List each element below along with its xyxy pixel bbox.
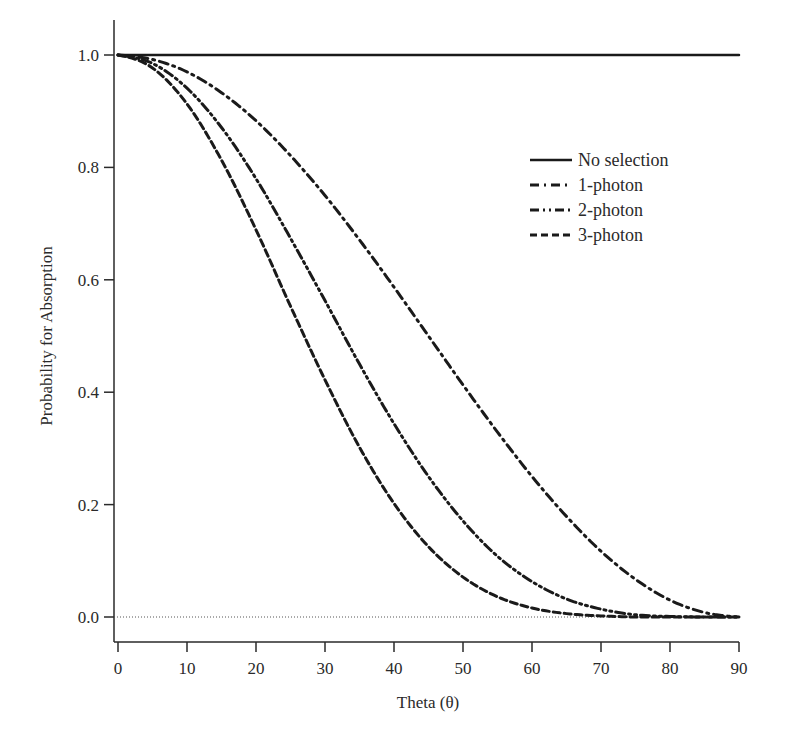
y-tick-label: 0.4 (78, 383, 100, 402)
x-tick-label: 30 (317, 659, 334, 678)
x-tick-label: 80 (662, 659, 679, 678)
y-axis-title: Probability for Absorption (37, 246, 56, 426)
series-line-1-photon (118, 55, 739, 617)
chart-canvas: 0.00.20.40.60.81.0 0102030405060708090 T… (0, 0, 785, 749)
legend: No selection1-photon2-photon3-photon (530, 150, 668, 245)
x-tick-label: 40 (386, 659, 403, 678)
x-tick-label: 90 (731, 659, 748, 678)
x-tick-label: 60 (524, 659, 541, 678)
x-tick-label: 50 (455, 659, 472, 678)
legend-label: 3-photon (578, 225, 643, 245)
y-tick-label: 0.0 (78, 608, 99, 627)
x-axis-ticks: 0102030405060708090 (114, 642, 748, 678)
x-tick-label: 20 (248, 659, 265, 678)
y-tick-label: 1.0 (78, 46, 99, 65)
legend-label: No selection (578, 150, 668, 170)
y-tick-label: 0.8 (78, 158, 99, 177)
y-axis-ticks: 0.00.20.40.60.81.0 (78, 46, 114, 627)
legend-label: 1-photon (578, 175, 643, 195)
y-tick-label: 0.2 (78, 496, 99, 515)
plot-series (118, 55, 739, 617)
x-tick-label: 10 (179, 659, 196, 678)
legend-label: 2-photon (578, 200, 643, 220)
x-tick-label: 0 (114, 659, 123, 678)
x-axis-title: Theta (θ) (397, 693, 459, 712)
y-tick-label: 0.6 (78, 271, 99, 290)
x-tick-label: 70 (593, 659, 610, 678)
